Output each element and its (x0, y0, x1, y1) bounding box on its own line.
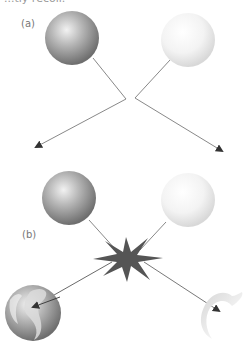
sphere-dark-b (42, 171, 96, 225)
panel-b (5, 171, 242, 341)
arrow-out-left-a (36, 99, 126, 147)
arrow-out-right-a (135, 98, 222, 151)
path-in-left-a (93, 58, 126, 99)
panel-a (36, 11, 222, 151)
collision-diagram (0, 0, 250, 348)
fragment-light (201, 292, 242, 339)
sphere-light-a (161, 13, 215, 67)
sphere-dark-a (45, 11, 99, 65)
collision-burst-icon (93, 237, 163, 282)
sphere-light-b (161, 173, 215, 227)
fragment-dark (5, 285, 61, 341)
path-in-right-a (135, 60, 170, 98)
path-in-right-b (140, 222, 166, 250)
